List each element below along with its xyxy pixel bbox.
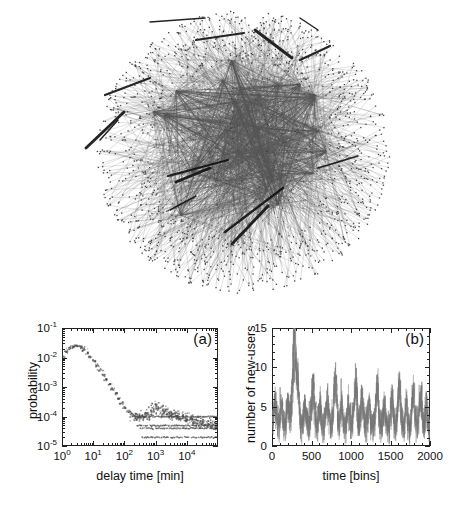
x-tick-label-b: 0 [269,450,275,462]
axis-tick [427,352,430,353]
axis-tick [143,328,144,331]
axis-tick [215,408,218,409]
axis-tick [62,388,65,389]
axis-tick [146,443,147,446]
axis-tick [215,418,218,419]
axis-tick [215,392,218,393]
axis-tick [149,328,150,331]
axis-tick [406,328,407,331]
axis-tick [62,399,65,400]
axis-tick [215,359,218,360]
axis-tick [327,443,328,446]
axis-tick [272,328,277,329]
axis-tick [272,407,277,408]
panel-a-tag: (a) [193,330,212,347]
x-tick-label-a: 101 [85,450,102,462]
axis-tick [62,408,65,409]
axis-tick [62,423,65,424]
axis-tick [62,373,65,374]
axis-tick [117,328,118,331]
axis-tick [62,392,65,393]
axis-tick [62,437,65,438]
axis-tick [177,443,178,446]
axis-tick [422,328,423,331]
axis-tick [154,443,155,446]
axis-tick [209,328,210,331]
axis-tick [62,419,65,420]
axis-tick [215,329,218,330]
axis-tick [272,438,275,439]
axis-tick [93,441,94,446]
axis-tick [115,328,116,331]
axis-tick [62,364,65,365]
axis-tick [62,333,65,334]
axis-tick [215,428,218,429]
axis-tick [425,407,430,408]
axis-tick [215,366,218,367]
axis-tick [62,360,65,361]
axis-tick [215,331,218,332]
axis-tick [343,328,344,331]
axis-tick [304,443,305,446]
axis-tick [319,443,320,446]
axis-tick [215,419,218,420]
axis-tick [108,443,109,446]
x-tick-label-b: 1000 [338,450,364,462]
axis-tick [215,333,218,334]
axis-tick [185,328,186,331]
x-tick-label-a: 102 [116,450,133,462]
axis-tick [165,328,166,331]
axis-tick [209,443,210,446]
axis-tick [430,441,431,446]
axis-tick [202,443,203,446]
axis-tick [351,328,352,333]
axis-tick [427,422,430,423]
axis-tick [272,399,275,400]
y-tick-label-a: 10-4 [37,411,57,423]
axis-tick [170,443,171,446]
axis-tick [296,443,297,446]
axis-tick [427,383,430,384]
axis-tick [211,443,212,446]
axis-tick [272,375,275,376]
axis-tick [430,328,431,333]
axis-tick [62,446,67,447]
axis-tick [115,443,116,446]
axis-tick [319,328,320,331]
axis-tick [196,328,197,331]
axis-tick [359,328,360,331]
axis-tick [124,441,125,446]
axis-tick [304,328,305,331]
axis-tick [272,352,275,353]
axis-tick [351,441,352,446]
axis-tick [391,441,392,446]
axis-tick [215,396,218,397]
x-axis-title-a: delay time [min] [96,469,184,483]
axis-tick [215,343,218,344]
axis-tick [215,360,218,361]
x-tick-label-a: 103 [147,450,164,462]
axis-tick [187,441,188,446]
axis-tick [123,328,124,331]
axis-tick [62,366,65,367]
axis-tick [149,443,150,446]
axis-tick [427,344,430,345]
axis-tick [86,328,87,331]
axis-tick [375,443,376,446]
axis-tick [272,430,275,431]
axis-tick [92,443,93,446]
axis-tick [180,443,181,446]
axis-tick [215,437,218,438]
axis-tick [93,328,94,333]
panel-b-plot: (b) [272,328,430,446]
axis-tick [414,328,415,331]
axis-tick [170,328,171,331]
axis-tick [62,349,65,350]
axis-tick [177,328,178,331]
axis-tick [62,428,65,429]
axis-tick [288,443,289,446]
axis-tick [312,328,313,333]
axis-tick [335,443,336,446]
axis-tick [383,443,384,446]
axis-tick [206,443,207,446]
